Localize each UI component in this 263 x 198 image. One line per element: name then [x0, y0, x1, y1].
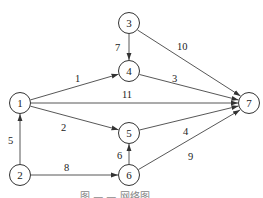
- node-6: 6: [119, 165, 140, 186]
- svg-text:7: 7: [246, 97, 252, 109]
- node-4: 4: [119, 61, 140, 82]
- edge-5-7: [140, 106, 239, 130]
- edge-label-1-5: 2: [61, 122, 66, 133]
- edge-label-4-7: 3: [172, 73, 177, 84]
- edge-4-7: [140, 75, 239, 101]
- edge-label-6-7: 9: [188, 151, 193, 162]
- svg-text:1: 1: [17, 97, 23, 109]
- edge-label-2-6: 8: [64, 162, 69, 173]
- node-3: 3: [119, 13, 140, 34]
- network-diagram: 1 11 2 5 8 7 10 3 4: [0, 0, 263, 198]
- edge-3-7: [138, 30, 241, 96]
- edge-label-3-4: 7: [115, 42, 120, 53]
- edge-label-5-7: 4: [183, 126, 189, 137]
- svg-text:4: 4: [126, 65, 132, 77]
- edge-1-5: [31, 106, 119, 130]
- figure-caption: 图 — — 网络图: [80, 190, 150, 198]
- svg-text:2: 2: [17, 169, 23, 181]
- edge-label-3-7: 10: [177, 41, 188, 52]
- edge-label-6-5: 6: [117, 150, 122, 161]
- node-1: 1: [10, 93, 31, 114]
- svg-text:6: 6: [126, 169, 132, 181]
- node-7: 7: [239, 93, 260, 114]
- node-2: 2: [10, 165, 31, 186]
- svg-text:3: 3: [126, 17, 132, 29]
- svg-text:5: 5: [126, 127, 132, 139]
- edge-label-1-7: 11: [122, 89, 132, 100]
- node-5: 5: [119, 123, 140, 144]
- edge-label-1-4: 1: [75, 73, 80, 84]
- edge-label-2-1: 5: [8, 135, 13, 146]
